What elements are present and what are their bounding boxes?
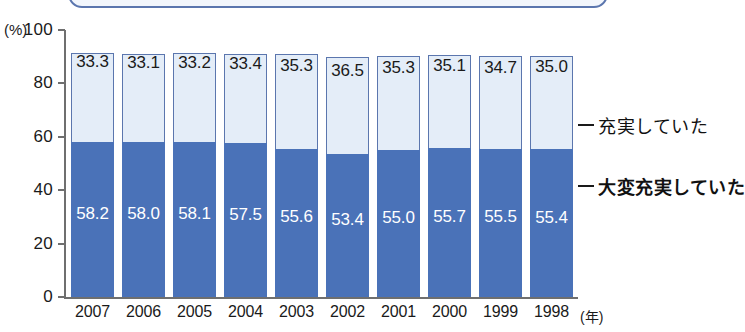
- y-axis-tick-label: 20: [33, 234, 53, 254]
- y-axis-tick-label: 0: [43, 287, 53, 307]
- bar-segment-fulfilled: 35.0: [530, 56, 573, 149]
- bar-value-label-very-fulfilled: 55.0: [382, 209, 414, 226]
- bar-segment-fulfilled: 36.5: [326, 57, 369, 154]
- y-axis-tick: [58, 189, 65, 191]
- bar-segment-fulfilled: 33.1: [122, 54, 165, 142]
- bar-value-label-very-fulfilled: 53.4: [331, 211, 363, 228]
- bar-segment-fulfilled: 35.3: [275, 54, 318, 148]
- bar-value-label-very-fulfilled: 57.5: [229, 206, 261, 223]
- bar-value-label-very-fulfilled: 58.2: [76, 205, 108, 222]
- bar-segment-very-fulfilled: 55.6: [275, 149, 318, 297]
- legend-dash-icon: [578, 185, 594, 187]
- bar-value-label-fulfilled: 33.3: [76, 53, 108, 70]
- x-axis-unit-label: (年): [580, 306, 603, 326]
- bar-value-label-very-fulfilled: 55.5: [484, 208, 516, 225]
- x-axis-label-2001: 2001: [372, 303, 426, 321]
- bar-value-label-fulfilled: 35.3: [382, 59, 414, 76]
- bar-segment-very-fulfilled: 58.0: [122, 142, 165, 297]
- y-axis-tick-label: 60: [33, 127, 53, 147]
- bar-value-label-fulfilled: 33.2: [178, 54, 210, 71]
- title-callout-box: [68, 0, 608, 8]
- y-axis-tick-label: 40: [33, 180, 53, 200]
- bar-2003: 35.355.6: [275, 30, 318, 297]
- legend-item-very-fulfilled: 大変充実していた: [578, 173, 745, 199]
- y-axis-tick: [58, 82, 65, 84]
- bar-2005: 33.258.1: [173, 30, 216, 297]
- bar-value-label-fulfilled: 35.1: [433, 57, 465, 74]
- bar-2007: 33.358.2: [71, 30, 114, 297]
- bar-segment-very-fulfilled: 57.5: [224, 143, 267, 297]
- x-axis-label-2006: 2006: [117, 303, 171, 321]
- legend-dash-icon: [578, 124, 594, 126]
- legend-label-fulfilled: 充実していた: [598, 112, 708, 138]
- x-axis-label-1999: 1999: [474, 303, 528, 321]
- bar-2000: 35.155.7: [428, 30, 471, 297]
- y-axis-tick: [58, 136, 65, 138]
- y-axis-tick: [58, 29, 65, 31]
- bar-2001: 35.355.0: [377, 30, 420, 297]
- x-axis-label-1998: 1998: [525, 303, 579, 321]
- bar-segment-fulfilled: 35.1: [428, 55, 471, 149]
- bar-2002: 36.553.4: [326, 30, 369, 297]
- bar-value-label-very-fulfilled: 55.7: [433, 208, 465, 225]
- bar-value-label-fulfilled: 35.3: [280, 57, 312, 74]
- x-axis-line: [64, 297, 578, 299]
- bar-value-label-very-fulfilled: 55.4: [535, 209, 567, 226]
- x-axis-label-2003: 2003: [270, 303, 324, 321]
- legend-label-very-fulfilled: 大変充実していた: [598, 173, 745, 199]
- bar-segment-fulfilled: 33.2: [173, 53, 216, 142]
- bar-segment-very-fulfilled: 55.4: [530, 149, 573, 297]
- legend-item-fulfilled: 充実していた: [578, 112, 708, 138]
- bar-segment-fulfilled: 33.3: [71, 53, 114, 142]
- bar-value-label-fulfilled: 34.7: [484, 59, 516, 76]
- bar-segment-very-fulfilled: 58.1: [173, 142, 216, 297]
- bar-value-label-fulfilled: 36.5: [331, 62, 363, 79]
- y-axis-tick: [58, 296, 65, 298]
- y-axis-tick-label: 80: [33, 73, 53, 93]
- x-axis-label-2005: 2005: [168, 303, 222, 321]
- bar-2004: 33.457.5: [224, 30, 267, 297]
- bar-value-label-very-fulfilled: 58.0: [127, 205, 159, 222]
- bar-segment-very-fulfilled: 55.5: [479, 149, 522, 297]
- bar-value-label-fulfilled: 33.4: [229, 55, 261, 72]
- bar-2006: 33.158.0: [122, 30, 165, 297]
- bar-1999: 34.755.5: [479, 30, 522, 297]
- bar-value-label-fulfilled: 35.0: [535, 58, 567, 75]
- x-axis-label-2002: 2002: [321, 303, 375, 321]
- bar-segment-fulfilled: 33.4: [224, 54, 267, 143]
- bar-1998: 35.055.4: [530, 30, 573, 297]
- bar-value-label-very-fulfilled: 58.1: [178, 205, 210, 222]
- x-axis-label-2004: 2004: [219, 303, 273, 321]
- y-axis-tick: [58, 243, 65, 245]
- x-axis-label-2000: 2000: [423, 303, 477, 321]
- bar-segment-very-fulfilled: 58.2: [71, 142, 114, 297]
- bar-value-label-very-fulfilled: 55.6: [280, 208, 312, 225]
- stacked-bar-chart: (%) 020406080100 33.358.233.158.033.258.…: [0, 0, 745, 332]
- bar-segment-fulfilled: 34.7: [479, 56, 522, 149]
- bar-segment-very-fulfilled: 55.7: [428, 148, 471, 297]
- bar-segment-very-fulfilled: 55.0: [377, 150, 420, 297]
- bar-value-label-fulfilled: 33.1: [127, 54, 159, 71]
- bar-segment-fulfilled: 35.3: [377, 56, 420, 150]
- x-axis-label-2007: 2007: [66, 303, 120, 321]
- y-axis-tick-label: 100: [24, 20, 53, 40]
- bar-segment-very-fulfilled: 53.4: [326, 154, 369, 297]
- y-axis-line: [64, 30, 66, 298]
